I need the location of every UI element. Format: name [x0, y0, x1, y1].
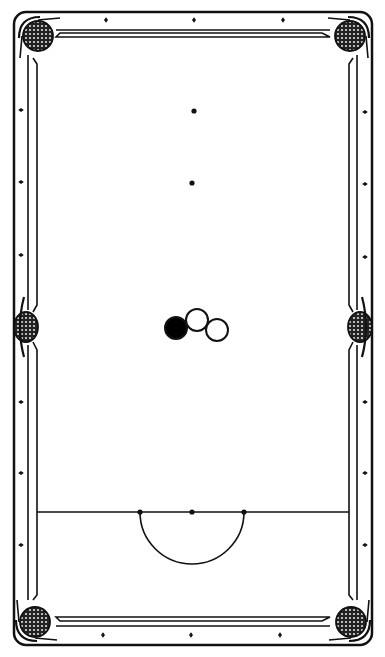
diamond-bottom-1 — [101, 632, 105, 638]
diamond-right-1 — [362, 110, 368, 114]
object-ball-2 — [206, 319, 228, 341]
diamond-left-6 — [18, 543, 24, 547]
d-semicircle — [140, 512, 244, 564]
pocket-top-left — [19, 17, 60, 58]
black-spot — [191, 108, 196, 113]
diamond-top-3 — [281, 17, 285, 23]
snooker-table — [0, 0, 385, 657]
pink-spot — [189, 180, 194, 185]
diamond-bottom-3 — [278, 632, 282, 638]
diamond-left-1 — [18, 108, 24, 112]
diamond-left-5 — [18, 471, 24, 475]
top-rail — [56, 30, 330, 37]
pocket-bottom-left — [16, 600, 57, 641]
object-ball-1 — [186, 309, 208, 331]
diamond-right-5 — [362, 471, 368, 475]
pocket-bottom-right — [329, 600, 370, 641]
balls — [165, 309, 228, 341]
yellow-spot — [137, 509, 142, 514]
diamond-right-3 — [362, 255, 368, 259]
diamond-top-2 — [192, 17, 196, 23]
diamond-left-4 — [18, 400, 24, 404]
pocket-middle-right — [348, 297, 372, 357]
diamond-bottom-2 — [189, 632, 193, 638]
brown-spot — [189, 509, 194, 514]
diamond-right-6 — [362, 543, 368, 547]
diamond-right-4 — [362, 400, 368, 404]
green-spot — [241, 509, 246, 514]
diamond-left-2 — [18, 180, 24, 184]
cue-ball — [165, 317, 187, 339]
pocket-top-right — [328, 17, 369, 58]
diamond-right-2 — [362, 182, 368, 186]
diamond-left-3 — [18, 253, 24, 257]
pocket-middle-left — [14, 297, 38, 357]
diamond-top-1 — [104, 17, 108, 23]
bottom-rail — [56, 617, 330, 626]
snooker-diagram — [0, 0, 385, 657]
